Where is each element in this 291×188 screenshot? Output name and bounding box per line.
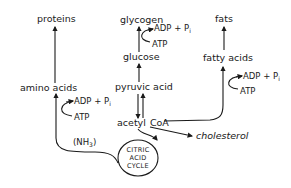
adp-label-amino: ADP + Pi <box>74 96 111 107</box>
node-proteins: proteins <box>37 13 76 24</box>
node-fatty-acids: fatty acids <box>203 52 253 63</box>
cycle-label-2: ACID <box>130 154 147 162</box>
arrow-acetyl-to-cycle <box>138 129 157 140</box>
arrow-acetyl-to-cholesterol <box>150 127 192 136</box>
metabolism-diagram: proteins amino acids ADP + Pi ATP (NH3) … <box>0 0 291 188</box>
cycle-label-1: CITRIC <box>126 146 149 154</box>
cycle-label-3: CYCLE <box>127 162 149 170</box>
node-amino-acids: amino acids <box>20 82 77 93</box>
adp-label-glycogen: ADP + Pi <box>154 23 191 34</box>
arrow-acetyl-to-fatty <box>164 67 223 121</box>
atp-label-amino: ATP <box>74 112 89 122</box>
node-fats: fats <box>215 13 233 24</box>
node-glucose: glucose <box>123 51 160 62</box>
atp-label-fatty: ATP <box>240 86 255 96</box>
cofactor-curve-amino <box>62 101 73 116</box>
node-acetyl-coa: acetylCoA <box>117 117 169 128</box>
adp-label-fatty: ADP + Pi <box>243 71 280 82</box>
node-pyruvic-acid: pyruvic acid <box>115 81 173 92</box>
atp-label-glycogen: ATP <box>152 39 167 49</box>
arrow-adp-amino <box>66 101 73 102</box>
ammonia-label: (NH3) <box>73 137 96 148</box>
node-cholesterol: cholesterol <box>196 130 249 141</box>
